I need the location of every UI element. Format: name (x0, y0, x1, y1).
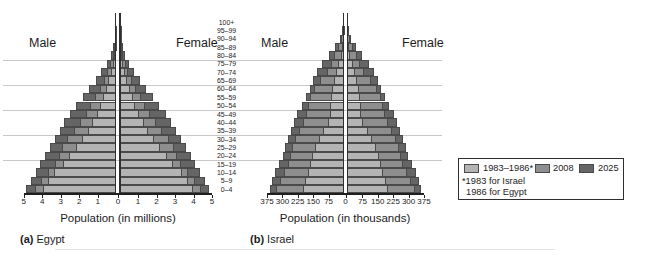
age-group-label: 80–84 (217, 52, 236, 59)
bar-egypt-male-1983–1986* (100, 102, 116, 110)
bar-egypt-male-1983–1986* (82, 135, 116, 143)
israel-caption-prefix: (b) (250, 233, 264, 245)
x-axis-tick-label: 150 (307, 198, 320, 206)
bar-egypt-male-1983–1986* (97, 110, 116, 118)
bar-egypt-female-1983–1986* (120, 76, 128, 84)
bar-egypt-female-1983–1986* (120, 143, 161, 151)
legend-swatch-2025 (579, 164, 594, 173)
bar-israel-female-1983–1986* (347, 76, 357, 84)
bar-egypt-female-1983–1986* (120, 135, 154, 143)
bar-israel-female-1983–1986* (347, 127, 368, 135)
x-axis-tick-label: 75 (324, 198, 333, 206)
age-group-label: 30–34 (217, 136, 236, 143)
age-group-label: 45–49 (217, 111, 236, 118)
bar-egypt-male-1983–1986* (92, 118, 116, 126)
x-axis-tick-label: 4 (191, 198, 195, 206)
bar-egypt-female-1983–1986* (120, 168, 182, 176)
egypt-caption-text: Egypt (37, 233, 65, 245)
age-group-label: 100+ (219, 19, 235, 26)
legend-footnote-line1: *1983 for Israel (462, 176, 525, 186)
egypt-caption: (a) Egypt (20, 233, 65, 245)
bar-israel-male-1983–1986* (319, 135, 344, 143)
bar-israel-female-1983–1986* (347, 85, 359, 93)
x-axis-tick-label: 5 (210, 198, 214, 206)
bar-israel-female-1983–1986* (347, 135, 372, 143)
age-group-label: 70–74 (217, 69, 236, 76)
x-axis-tick-label: 0 (116, 198, 120, 206)
x-axis-tick-label: 225 (387, 198, 400, 206)
age-group-label: 15–19 (217, 161, 236, 168)
bar-egypt-male-1983–1986* (43, 185, 116, 193)
bar-egypt-female-1983–1986* (120, 177, 188, 185)
age-group-label: 85–89 (217, 44, 236, 51)
bar-egypt-female-1983–1986* (120, 93, 133, 101)
population-pyramids-figure: 100+95–9990–9485–8980–8475–7970–7465–696… (0, 0, 659, 257)
center-axis-line (343, 13, 344, 193)
bar-israel-female-1983–1986* (347, 152, 379, 160)
bar-israel-female-1983–1986* (347, 110, 361, 118)
bar-egypt-male-1983–1986* (63, 160, 117, 168)
center-axis-line (347, 13, 348, 193)
legend-footnote-line2: 1986 for Egypt (466, 187, 526, 197)
age-group-label: 5–9 (221, 177, 233, 184)
israel-caption: (b) Israel (250, 233, 294, 245)
bar-israel-male-1983–1986* (330, 110, 344, 118)
bar-egypt-female-1983–1986* (120, 160, 174, 168)
bar-israel-female-1983–1986* (347, 185, 388, 193)
bar-egypt-female-1983–1986* (120, 118, 144, 126)
legend: 1983–1986* 2008 2025 *1983 for Israel 19… (458, 158, 624, 200)
bar-israel-male-1983–1986* (323, 127, 344, 135)
x-axis-tick-label: 3 (58, 198, 62, 206)
x-axis-tick-label: 3 (173, 198, 177, 206)
legend-label-1983-1986: 1983–1986* (483, 163, 533, 173)
x-axis-tick-label: 5 (21, 198, 25, 206)
age-group-label: 40–44 (217, 119, 236, 126)
bar-israel-male-1983–1986* (303, 185, 344, 193)
bar-israel-female-1983–1986* (347, 102, 361, 110)
x-axis-tick-label: 375 (260, 198, 273, 206)
age-group-label: 20–24 (217, 152, 236, 159)
legend-label-2025: 2025 (598, 163, 619, 173)
age-group-label: 25–29 (217, 144, 236, 151)
age-group-label: 50–54 (217, 102, 236, 109)
x-axis-tick-label: 300 (402, 198, 415, 206)
israel-male-label: Male (261, 37, 288, 50)
age-group-label: 90–94 (217, 35, 236, 42)
x-axis-tick-label: 0 (343, 198, 347, 206)
bar-egypt-male-1983–1986* (54, 168, 116, 176)
bar-israel-female-1983–1986* (347, 143, 376, 151)
bar-israel-female-1983–1986* (347, 160, 381, 168)
israel-x-axis-title: Population (in thousands) (280, 212, 410, 224)
egypt-x-axis-title: Population (in millions) (60, 212, 176, 224)
bar-egypt-female-1983–1986* (120, 185, 193, 193)
bar-egypt-male-1983–1986* (48, 177, 116, 185)
age-group-label: 35–39 (217, 127, 236, 134)
bar-israel-male-1983–1986* (310, 160, 344, 168)
bar-israel-male-1983–1986* (308, 168, 344, 176)
age-group-label: 95–99 (217, 27, 236, 34)
legend-swatch-2008 (535, 164, 550, 173)
age-group-label: 75–79 (217, 60, 236, 67)
egypt-female-label: Female (176, 37, 218, 50)
bar-egypt-female-1983–1986* (120, 152, 167, 160)
age-group-label: 10–14 (217, 169, 236, 176)
bar-egypt-male-1983–1986* (76, 143, 117, 151)
x-axis-tick-label: 75 (358, 198, 367, 206)
egypt-caption-prefix: (a) (20, 233, 33, 245)
bar-israel-male-1983–1986* (328, 118, 344, 126)
israel-caption-text: Israel (267, 233, 294, 245)
x-axis-tick-label: 300 (276, 198, 289, 206)
bar-israel-male-1983–1986* (330, 102, 344, 110)
x-axis-tick-label: 150 (371, 198, 384, 206)
age-group-label: 65–69 (217, 77, 236, 84)
legend-swatch-1983-1986 (464, 164, 479, 173)
egypt-male-label: Male (29, 37, 56, 50)
israel-female-label: Female (402, 37, 444, 50)
bar-israel-male-1983–1986* (331, 93, 344, 101)
x-axis-tick-label: 1 (136, 198, 140, 206)
bar-egypt-female-1983–1986* (120, 85, 130, 93)
bar-israel-male-1983–1986* (305, 177, 344, 185)
age-group-label: 0–4 (221, 186, 233, 193)
x-axis-tick-label: 2 (154, 198, 158, 206)
x-axis-tick-label: 4 (40, 198, 44, 206)
